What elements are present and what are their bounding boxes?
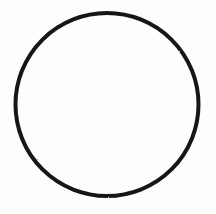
circle-drawing [0,0,216,214]
circle-outline-shape [16,13,199,196]
figure-canvas [0,0,216,214]
